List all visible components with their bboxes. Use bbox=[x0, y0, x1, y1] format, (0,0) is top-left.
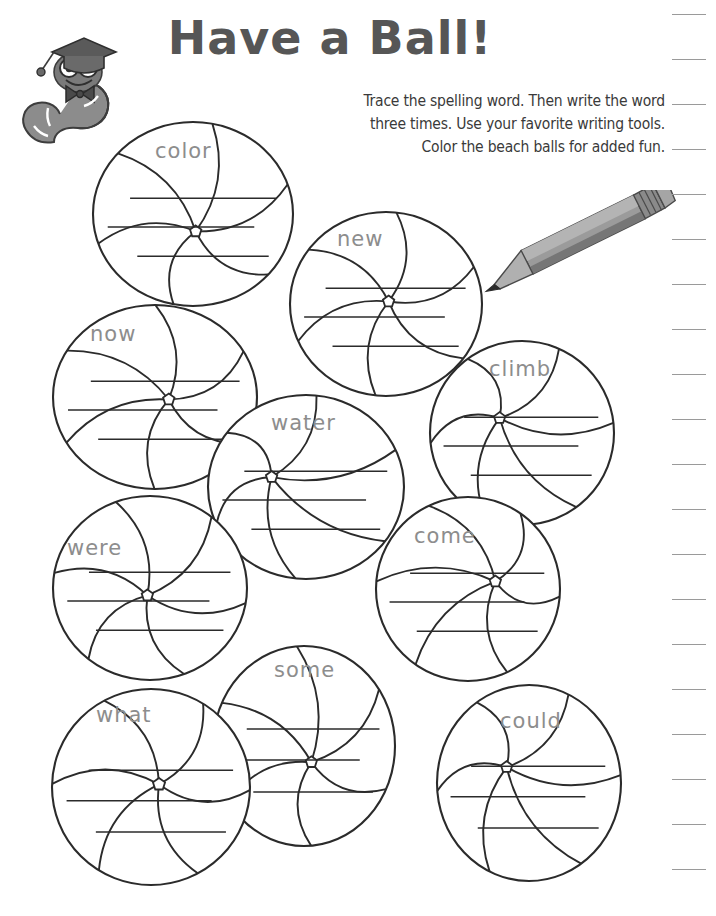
ruler-tick bbox=[672, 59, 706, 60]
worksheet-page: Have a Ball! Trace the spelling word. Th… bbox=[0, 0, 716, 916]
ruler-tick bbox=[672, 779, 706, 780]
ruler-edge bbox=[660, 0, 716, 916]
ruler-tick bbox=[672, 869, 706, 870]
ruler-tick bbox=[672, 284, 706, 285]
ruler-tick bbox=[672, 14, 706, 15]
instruction-line-1: Trace the spelling word. Then write the … bbox=[320, 90, 665, 113]
ruler-tick bbox=[672, 419, 706, 420]
ruler-tick bbox=[672, 689, 706, 690]
instruction-line-2: three times. Use your favorite writing t… bbox=[320, 113, 665, 136]
ball-outline bbox=[93, 122, 293, 306]
ruler-tick bbox=[672, 554, 706, 555]
ruler-tick bbox=[672, 104, 706, 105]
ruler-tick bbox=[672, 374, 706, 375]
ruler-tick bbox=[672, 149, 706, 150]
ruler-tick bbox=[672, 239, 706, 240]
ruler-tick bbox=[672, 509, 706, 510]
ruler-tick bbox=[672, 194, 706, 195]
ball-outline bbox=[376, 497, 560, 681]
beach-ball[interactable] bbox=[372, 493, 564, 685]
ruler-tick bbox=[672, 644, 706, 645]
beach-ball[interactable] bbox=[89, 118, 297, 310]
ruler-tick bbox=[672, 824, 706, 825]
instruction-line-3: Color the beach balls for added fun. bbox=[320, 136, 665, 159]
beach-ball[interactable] bbox=[48, 685, 254, 889]
ruler-tick bbox=[672, 329, 706, 330]
beach-ball[interactable] bbox=[433, 681, 625, 885]
ruler-tick bbox=[672, 734, 706, 735]
ball-outline bbox=[52, 689, 250, 885]
ruler-tick bbox=[672, 464, 706, 465]
instructions-text: Trace the spelling word. Then write the … bbox=[320, 90, 665, 158]
pencil-icon bbox=[476, 190, 684, 298]
ruler-tick bbox=[672, 599, 706, 600]
page-title: Have a Ball! bbox=[0, 14, 660, 62]
